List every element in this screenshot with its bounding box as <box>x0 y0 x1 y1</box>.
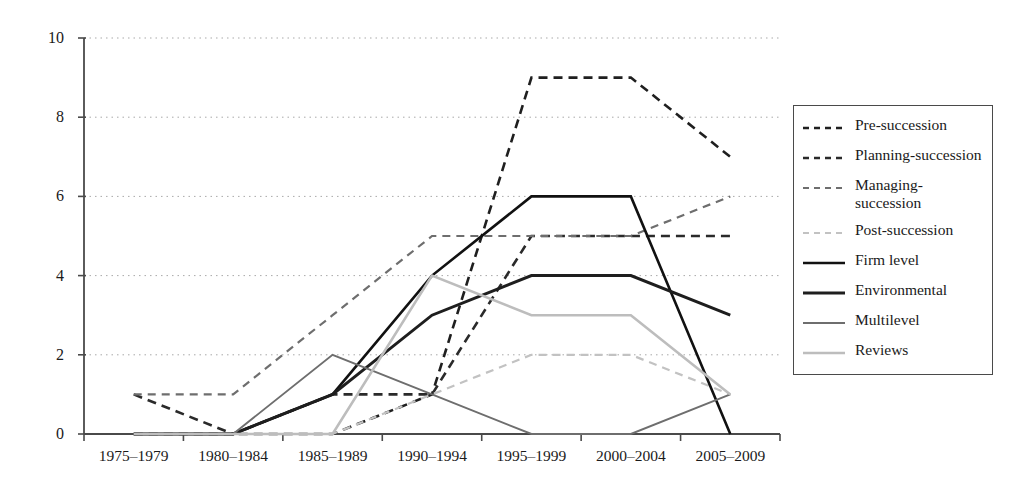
legend-item-label: Environmental <box>855 281 947 299</box>
legend-swatch-icon <box>802 119 846 137</box>
series-lines <box>134 78 731 434</box>
legend-swatch-icon <box>802 284 846 302</box>
x-tick-label: 1995–1999 <box>497 447 567 465</box>
x-tick-label: 1975–1979 <box>99 447 169 465</box>
y-tick-label: 6 <box>30 187 64 205</box>
legend-item[interactable]: Post-succession <box>802 221 982 242</box>
legend-item[interactable]: Managing-succession <box>802 176 982 212</box>
legend-swatch-icon <box>802 254 846 272</box>
legend-item-label: Reviews <box>855 341 908 359</box>
legend-item-label: Managing-succession <box>855 176 982 212</box>
legend-item-label: Firm level <box>855 251 919 269</box>
series-line-planning-succession <box>134 236 731 434</box>
y-tick-label: 10 <box>30 29 64 47</box>
x-tick-label: 1985–1989 <box>298 447 368 465</box>
legend-item-label: Pre-succession <box>855 116 947 134</box>
legend-item-label: Multilevel <box>855 311 920 329</box>
legend-swatch-icon <box>802 149 846 167</box>
x-tick-label: 1980–1984 <box>198 447 268 465</box>
legend-swatch-icon <box>802 314 846 332</box>
legend-item[interactable]: Pre-succession <box>802 116 982 137</box>
x-axis-labels: 1975–19791980–19841985–19891990–19941995… <box>0 447 1025 473</box>
legend-swatch-icon <box>802 344 846 362</box>
series-line-managing-succession <box>134 196 731 394</box>
legend-swatch-icon <box>802 179 846 197</box>
legend-item[interactable]: Firm level <box>802 251 982 272</box>
legend-item[interactable]: Environmental <box>802 281 982 302</box>
x-tick-label: 1990–1994 <box>397 447 467 465</box>
series-line-pre-succession <box>134 78 731 434</box>
legend-item[interactable]: Multilevel <box>802 311 982 332</box>
axis-ticks <box>78 38 780 441</box>
y-tick-label: 4 <box>30 267 64 285</box>
legend-item[interactable]: Reviews <box>802 341 982 362</box>
legend-item-label: Post-succession <box>855 221 953 239</box>
legend-item[interactable]: Planning-succession <box>802 146 982 167</box>
y-axis-labels: 0246810 <box>30 0 64 488</box>
chart-legend: Pre-successionPlanning-successionManagin… <box>793 105 993 375</box>
y-tick-label: 8 <box>30 108 64 126</box>
x-tick-label: 2000–2004 <box>596 447 666 465</box>
legend-swatch-icon <box>802 224 846 242</box>
chart-figure: 0246810 1975–19791980–19841985–19891990–… <box>0 0 1025 488</box>
x-tick-label: 2005–2009 <box>695 447 765 465</box>
y-tick-label: 0 <box>30 425 64 443</box>
y-tick-label: 2 <box>30 346 64 364</box>
gridlines <box>84 38 780 355</box>
legend-item-label: Planning-succession <box>855 146 982 164</box>
